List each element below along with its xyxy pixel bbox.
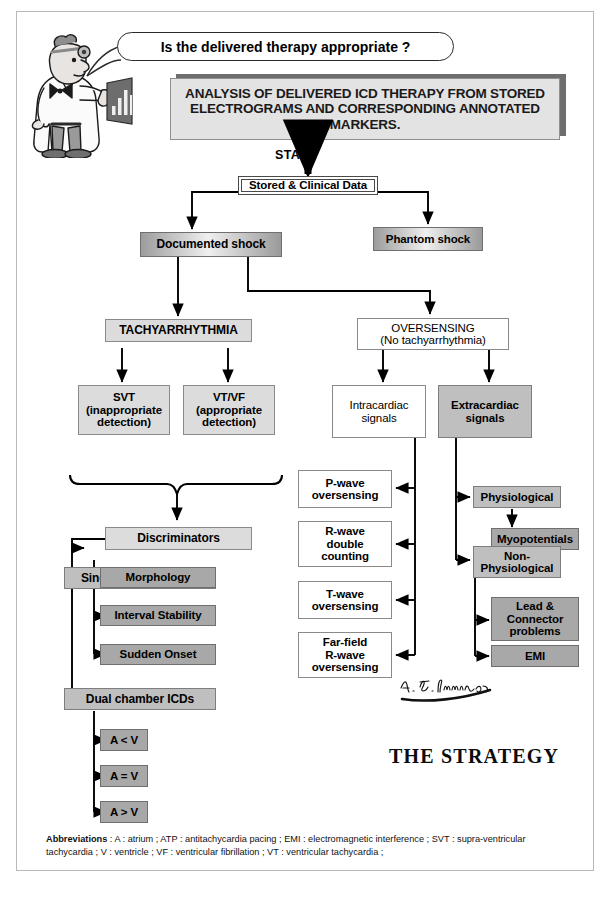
node-far-field-r-wave-oversensing[interactable]: Far-field R-wave oversensing (298, 632, 392, 678)
node-sudden-onset[interactable]: Sudden Onset (100, 644, 216, 665)
node-lead-connector-problems[interactable]: Lead & Connector problems (491, 597, 579, 641)
author-signature: A. F. Sinnaeve (398, 674, 508, 708)
node-tachyarrhythmia[interactable]: TACHYARRHYTHMIA (105, 319, 252, 342)
node-oversensing[interactable]: OVERSENSING (No tachyarrhythmia) (357, 318, 509, 350)
node-phantom-shock[interactable]: Phantom shock (373, 227, 483, 251)
node-interval-stability[interactable]: Interval Stability (100, 605, 216, 626)
node-p-wave-oversensing[interactable]: P-wave oversensing (298, 470, 392, 508)
node-a-greater-than-v[interactable]: A > V (100, 801, 148, 823)
node-a-less-than-v[interactable]: A < V (100, 729, 148, 751)
start-label: START (275, 148, 317, 162)
node-physiological[interactable]: Physiological (473, 486, 561, 508)
node-intracardiac-signals[interactable]: Intracardiac signals (332, 385, 426, 438)
node-discriminators[interactable]: Discriminators (105, 527, 252, 550)
node-r-wave-double-counting[interactable]: R-wave double counting (298, 521, 392, 567)
abbreviations-note: Abbreviations : A : atrium ; ATP : antit… (46, 833, 552, 859)
node-t-wave-oversensing[interactable]: T-wave oversensing (298, 581, 392, 619)
strategy-heading: THE STRATEGY (389, 745, 559, 768)
abbreviations-body: : A : atrium ; ATP : antitachycardia pac… (46, 834, 525, 857)
node-morphology[interactable]: Morphology (100, 567, 216, 588)
node-documented-shock[interactable]: Documented shock (140, 232, 282, 257)
diagram-page: Is the delivered therapy appropriate ? A… (0, 0, 612, 898)
node-extracardiac-signals[interactable]: Extracardiac signals (438, 385, 532, 438)
node-stored-clinical-data[interactable]: Stored & Clinical Data (238, 176, 378, 195)
node-non-physiological[interactable]: Non- Physiological (473, 546, 561, 578)
node-emi[interactable]: EMI (491, 645, 579, 667)
node-dual-chamber-icds[interactable]: Dual chamber ICDs (64, 688, 216, 710)
abbreviations-heading: Abbreviations (46, 834, 107, 844)
node-svt[interactable]: SVT (inappropriate detection) (78, 385, 170, 435)
node-a-equal-v[interactable]: A = V (100, 765, 148, 787)
node-vt-vf[interactable]: VT/VF (appropriate detection) (183, 385, 275, 435)
